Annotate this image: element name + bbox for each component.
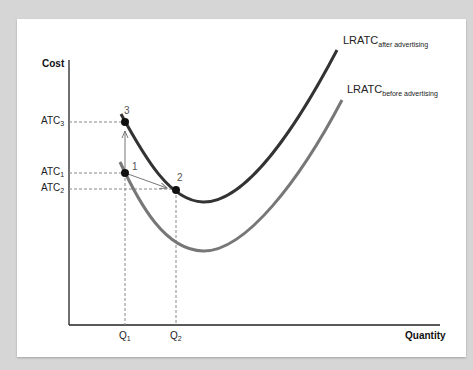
- lratc-after-curve: [121, 50, 337, 202]
- y-tick-atc2: ATC2: [41, 182, 64, 194]
- lratc-before-curve: [120, 100, 342, 251]
- chart-plot: [0, 0, 473, 370]
- point-1: [121, 169, 129, 177]
- point-2: [172, 186, 180, 194]
- point-3: [121, 118, 129, 126]
- point-3-label: 3: [124, 105, 130, 116]
- y-tick-atc3: ATC3: [41, 115, 64, 127]
- x-tick-q1: Q1: [119, 330, 131, 342]
- y-axis-label: Cost: [42, 58, 64, 69]
- x-axis-label: Quantity: [405, 330, 446, 341]
- point-2-label: 2: [177, 172, 183, 183]
- point-1-label: 1: [132, 161, 138, 172]
- x-tick-q2: Q2: [170, 330, 182, 342]
- lratc-before-label: LRATCbefore advertising: [347, 83, 438, 97]
- y-tick-atc1: ATC1: [41, 166, 64, 178]
- lratc-after-label: LRATCafter advertising: [343, 34, 428, 48]
- guide-lines: [69, 122, 176, 325]
